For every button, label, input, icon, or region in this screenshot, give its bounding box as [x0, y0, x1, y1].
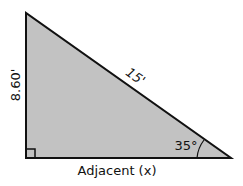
angle-label: 35° — [174, 138, 197, 153]
triangle-shape — [26, 13, 231, 158]
opposite-label: 8.60' — [8, 69, 23, 102]
triangle-diagram: 8.60' 15' Adjacent (x) 35° — [0, 0, 243, 186]
adjacent-label: Adjacent (x) — [78, 163, 157, 178]
